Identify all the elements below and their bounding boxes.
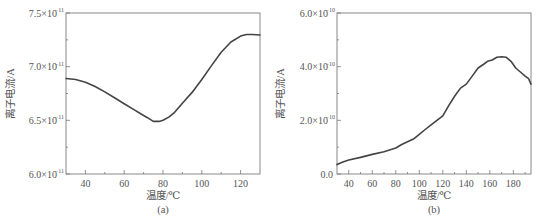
x-tick-label: 140	[459, 178, 474, 189]
plot-frame	[66, 13, 260, 174]
y-tick-label: 4.0×10	[300, 61, 328, 72]
y-tick-label: 7.0×10	[29, 61, 57, 72]
panel-caption: (a)	[157, 204, 169, 216]
y-tick-exponent: −11	[55, 168, 64, 174]
x-tick-label: 160	[482, 178, 497, 189]
y-axis-label: 离子电流/A	[274, 68, 286, 119]
x-tick-label: 100	[194, 178, 209, 189]
x-tick-label: 180	[506, 178, 521, 189]
x-tick-label: 120	[435, 178, 450, 189]
x-tick-label: 40	[80, 178, 90, 189]
chart-panel-a: 4060801001206.0×10−116.5×10−117.0×10−117…	[4, 7, 260, 216]
y-tick-label: 2.0×10	[300, 115, 328, 126]
y-tick-label: 6.5×10	[29, 115, 57, 126]
figure: 4060801001206.0×10−116.5×10−117.0×10−117…	[0, 0, 536, 223]
y-tick-exponent: −10	[326, 61, 335, 67]
y-tick-label: 6.0×10	[300, 8, 328, 19]
data-line	[66, 35, 260, 122]
y-tick-label: 7.5×10	[29, 8, 57, 19]
y-axis-label: 离子电流/A	[4, 68, 16, 119]
chart-panel-b: 4060801001201401601800.02.0×10−104.0×10−…	[274, 7, 531, 216]
x-tick-label: 40	[344, 178, 354, 189]
y-tick-exponent: −10	[326, 7, 335, 13]
y-tick-exponent: −10	[326, 114, 335, 120]
x-tick-label: 60	[367, 178, 377, 189]
y-tick-label: 0.0	[321, 169, 334, 180]
x-tick-label: 80	[391, 178, 401, 189]
x-tick-label: 100	[412, 178, 427, 189]
x-axis-label: 温度/℃	[417, 189, 452, 201]
y-tick-exponent: −11	[55, 7, 64, 13]
x-axis-label: 温度/℃	[146, 189, 181, 201]
plot-frame	[337, 13, 531, 174]
y-tick-exponent: −11	[55, 61, 64, 67]
panel-caption: (b)	[428, 204, 441, 216]
data-line	[337, 57, 531, 165]
y-tick-exponent: −11	[55, 114, 64, 120]
x-tick-label: 120	[233, 178, 248, 189]
x-tick-label: 60	[119, 178, 129, 189]
y-tick-label: 6.0×10	[29, 169, 57, 180]
x-tick-label: 80	[158, 178, 168, 189]
